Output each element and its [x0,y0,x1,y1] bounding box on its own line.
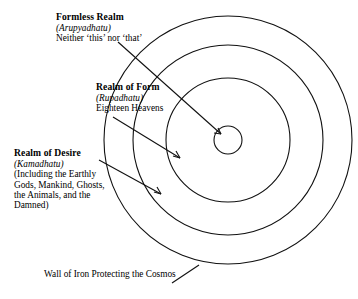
label-formless-desc: Neither ‘this’ nor ‘that’ [56,33,142,43]
circle-wall-of-iron [104,16,352,264]
label-formless-title: Formless Realm [56,12,142,23]
label-formless-sanskrit: (Arupyadhatu) [56,23,142,33]
label-desire-title: Realm of Desire [14,148,105,159]
label-realm-of-form: Realm of Form (Rupadhatu) Eighteen Heave… [96,82,163,114]
circle-formless-realm [214,126,242,154]
leader-line-form [113,117,180,158]
label-desire-desc-line3: the Animals, and the [14,190,105,200]
label-formless-realm: Formless Realm (Arupyadhatu) Neither ‘th… [56,12,142,44]
leader-line-wall [172,265,199,283]
label-form-title: Realm of Form [96,82,163,93]
diagram-page: Formless Realm (Arupyadhatu) Neither ‘th… [0,0,358,299]
label-desire-desc-line1: (Including the Earthly [14,169,105,179]
label-realm-of-desire: Realm of Desire (Kamadhatu) (Including t… [14,148,105,211]
label-form-sanskrit: (Rupadhatu) [96,93,163,103]
label-desire-sanskrit: (Kamadhatu) [14,159,105,169]
leader-line-desire [99,160,161,194]
label-desire-desc-line4: Damned) [14,200,105,210]
circle-realm-of-desire [133,45,323,235]
label-wall-of-iron: Wall of Iron Protecting the Cosmos [44,269,176,279]
circle-realm-of-form [166,78,290,202]
label-form-desc: Eighteen Heavens [96,103,163,113]
label-wall-desc: Wall of Iron Protecting the Cosmos [44,269,176,279]
label-desire-desc-line2: Gods, Mankind, Ghosts, [14,180,105,190]
